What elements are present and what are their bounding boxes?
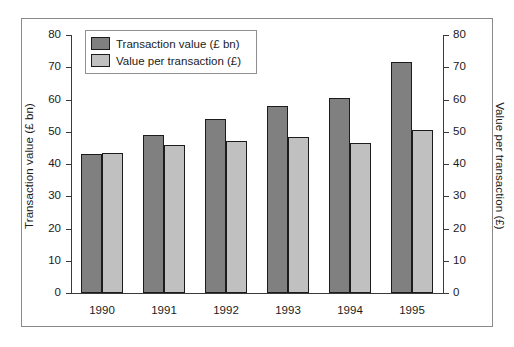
right-axis-tick-mark xyxy=(444,100,449,101)
left-axis-tick-label: 60 xyxy=(35,94,61,104)
left-axis-tick-mark xyxy=(66,229,71,230)
legend-swatch-icon xyxy=(91,37,110,50)
right-axis-tick-mark xyxy=(444,132,449,133)
right-axis-tick-label: 10 xyxy=(453,255,479,265)
left-axis-tick-mark xyxy=(66,196,71,197)
left-axis-tick-label: 20 xyxy=(35,223,61,233)
right-axis-tick-label: 60 xyxy=(453,94,479,104)
bar-1992-series1 xyxy=(205,119,226,293)
legend-item-value-per-transaction: Value per transaction (£) xyxy=(91,52,249,69)
left-axis-tick-label: 10 xyxy=(35,255,61,265)
left-axis-tick-mark xyxy=(66,67,71,68)
right-axis-tick-mark xyxy=(444,293,449,294)
right-axis-tick-mark xyxy=(444,229,449,230)
bar-1994-series2 xyxy=(350,143,371,293)
bar-1993-series1 xyxy=(267,106,288,293)
left-axis-tick-mark xyxy=(66,35,71,36)
right-axis-tick-label: 80 xyxy=(453,29,479,39)
right-axis-tick-label: 50 xyxy=(453,126,479,136)
right-axis-tick-mark xyxy=(444,164,449,165)
left-axis-tick-label: 30 xyxy=(35,190,61,200)
x-axis-tick-label: 1994 xyxy=(319,304,381,316)
bar-1992-series2 xyxy=(226,141,247,293)
right-axis-tick-mark xyxy=(444,196,449,197)
right-axis-tick-mark xyxy=(444,35,449,36)
legend-label: Value per transaction (£) xyxy=(116,55,241,67)
bar-1995-series1 xyxy=(391,62,412,293)
right-axis-tick-label: 40 xyxy=(453,158,479,168)
bar-1994-series1 xyxy=(329,98,350,293)
left-axis-tick-mark xyxy=(66,132,71,133)
left-axis-tick-label: 70 xyxy=(35,61,61,71)
left-axis-tick-mark xyxy=(66,293,71,294)
bar-1991-series1 xyxy=(143,135,164,293)
x-axis-tick-label: 1990 xyxy=(71,304,133,316)
right-axis-tick-mark xyxy=(444,261,449,262)
right-axis-title: Value per transaction (£) xyxy=(494,71,506,261)
left-axis-tick-label: 80 xyxy=(35,29,61,39)
x-axis-tick-label: 1995 xyxy=(381,304,443,316)
left-axis-title: Transaction value (£ bn) xyxy=(23,71,35,261)
left-axis-tick-label: 40 xyxy=(35,158,61,168)
right-axis-tick-label: 30 xyxy=(453,190,479,200)
right-axis-tick-label: 0 xyxy=(453,287,479,297)
left-axis-tick-mark xyxy=(66,100,71,101)
legend-label: Transaction value (£ bn) xyxy=(116,38,240,50)
legend-item-transaction-value: Transaction value (£ bn) xyxy=(91,35,249,52)
left-axis-tick-label: 50 xyxy=(35,126,61,136)
left-axis-tick-mark xyxy=(66,164,71,165)
left-axis-tick-label: 0 xyxy=(35,287,61,297)
bar-1993-series2 xyxy=(288,137,309,293)
chart-legend: Transaction value (£ bn) Value per trans… xyxy=(85,30,257,74)
bar-1990-series1 xyxy=(81,154,102,293)
x-axis-tick-label: 1993 xyxy=(257,304,319,316)
right-axis-tick-mark xyxy=(444,67,449,68)
left-axis-tick-mark xyxy=(66,261,71,262)
x-axis-tick-label: 1991 xyxy=(133,304,195,316)
bar-1995-series2 xyxy=(412,130,433,293)
axis-line xyxy=(71,293,444,294)
chart-plot-area: Transaction value (£ bn) Value per trans… xyxy=(0,0,514,347)
x-axis-tick-label: 1992 xyxy=(195,304,257,316)
right-axis-tick-label: 70 xyxy=(453,61,479,71)
bar-1991-series2 xyxy=(164,145,185,293)
axis-line xyxy=(71,35,72,294)
right-axis-tick-label: 20 xyxy=(453,223,479,233)
legend-swatch-icon xyxy=(91,54,110,67)
bar-1990-series2 xyxy=(102,153,123,293)
chart-figure: Transaction value (£ bn) Value per trans… xyxy=(0,0,514,347)
